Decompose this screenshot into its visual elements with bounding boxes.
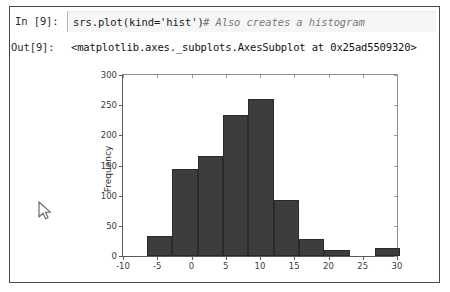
input-prompt-label: In [9]:: [15, 15, 59, 27]
mouse-pointer-icon: [37, 201, 53, 221]
x-axis-tick: [260, 256, 261, 260]
y-axis-minor-tick: [394, 105, 397, 106]
y-axis-tick: [119, 226, 123, 227]
x-axis-tick-label: 30: [392, 261, 403, 271]
output-repr-text: <matplotlib.axes._subplots.AxesSubplot a…: [71, 41, 417, 53]
code-comment: # Also creates a histogram: [203, 16, 365, 28]
x-axis-minor-tick: [294, 75, 295, 78]
x-axis-tick: [294, 256, 295, 260]
x-axis-minor-tick: [397, 75, 398, 78]
histogram-bar: [198, 156, 223, 256]
x-axis-tick: [192, 256, 193, 260]
x-axis-tick: [397, 256, 398, 260]
histogram-bar: [223, 115, 248, 256]
y-axis-tick: [119, 196, 123, 197]
output-prompt-label: Out[9]:: [11, 41, 55, 53]
y-axis-tick: [119, 105, 123, 106]
x-axis-minor-tick: [260, 75, 261, 78]
histogram-bars: [123, 75, 397, 256]
x-axis-tick-label: -5: [153, 261, 161, 271]
x-axis-minor-tick: [157, 75, 158, 78]
notebook-cell: In [9]: srs.plot(kind='hist') # Also cre…: [9, 6, 440, 283]
code-input-row: In [9]: srs.plot(kind='hist') # Also cre…: [10, 11, 439, 32]
histogram-bar: [147, 236, 172, 257]
x-axis-minor-tick: [226, 75, 227, 78]
y-axis-tick: [119, 166, 123, 167]
x-axis-tick-label: 15: [289, 261, 300, 271]
y-axis-tick-label: 300: [101, 70, 117, 80]
histogram-figure: Frequency 050100150200250300-10-50510152…: [84, 60, 404, 278]
y-axis-minor-tick: [394, 135, 397, 136]
histogram-bar: [375, 248, 400, 256]
code-text: srs.plot(kind='hist'): [73, 16, 204, 28]
x-axis-tick-label: 0: [189, 261, 194, 271]
plot-axes: 050100150200250300-10-5051015202530: [122, 74, 398, 257]
y-axis-tick-label: 200: [101, 130, 117, 140]
y-axis-minor-tick: [394, 196, 397, 197]
x-axis-minor-tick: [329, 75, 330, 78]
x-axis-tick: [123, 256, 124, 260]
y-axis-minor-tick: [394, 166, 397, 167]
x-axis-minor-tick: [192, 75, 193, 78]
histogram-bar: [274, 200, 299, 256]
y-axis-tick: [119, 135, 123, 136]
x-axis-tick-label: 5: [223, 261, 228, 271]
x-axis-tick: [226, 256, 227, 260]
x-axis-minor-tick: [363, 75, 364, 78]
x-axis-tick-label: 10: [255, 261, 266, 271]
x-axis-minor-tick: [123, 75, 124, 78]
x-axis-tick-label: 20: [323, 261, 334, 271]
x-axis-tick-label: -10: [116, 261, 130, 271]
x-axis-tick-label: 25: [357, 261, 368, 271]
y-axis-tick-label: 0: [112, 251, 117, 261]
histogram-bar: [172, 169, 197, 256]
y-axis-tick-label: 100: [101, 191, 117, 201]
y-axis-tick-label: 50: [106, 221, 117, 231]
x-axis-tick: [157, 256, 158, 260]
x-axis-tick: [363, 256, 364, 260]
histogram-bar: [248, 99, 273, 256]
code-input-area[interactable]: srs.plot(kind='hist') # Also creates a h…: [67, 11, 436, 32]
y-axis-tick-label: 250: [101, 100, 117, 110]
output-row: Out[9]: <matplotlib.axes._subplots.AxesS…: [10, 37, 439, 59]
y-axis-tick-label: 150: [101, 161, 117, 171]
y-axis-minor-tick: [394, 226, 397, 227]
histogram-bar: [299, 239, 324, 256]
x-axis-tick: [329, 256, 330, 260]
